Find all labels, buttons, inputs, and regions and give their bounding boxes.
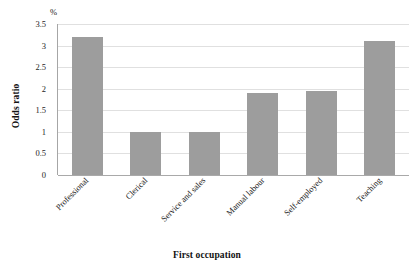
bar	[72, 37, 103, 175]
plot-area: 3.532.521.510.50	[57, 24, 408, 175]
bar	[247, 93, 278, 175]
x-axis-tick-label: Service and sales	[160, 176, 207, 223]
bar	[189, 132, 220, 175]
x-axis-tick-label: Teaching	[355, 176, 383, 204]
bars-group	[58, 24, 409, 175]
y-axis-tick-label: 2.5	[20, 63, 46, 72]
x-axis-title: First occupation	[0, 250, 414, 260]
bar-chart-figure: Odds ratio % 3.532.521.510.50 Profession…	[0, 0, 414, 275]
percent-unit-label: %	[50, 7, 57, 17]
bar	[130, 132, 161, 175]
y-axis-tick-label: 3.5	[20, 20, 46, 29]
y-axis-tick-label: 1	[20, 128, 46, 137]
bar	[306, 91, 337, 175]
y-axis-tick-label: 0.5	[20, 149, 46, 158]
y-axis-tick-label: 3	[20, 41, 46, 50]
y-axis-tick-label: 0	[20, 171, 46, 180]
x-axis-tick-label: Professional	[55, 176, 91, 212]
bar	[364, 41, 395, 175]
x-axis-tick-label: Self-employed	[283, 176, 324, 217]
x-axis-tick-label: Clerical	[124, 176, 149, 201]
x-axis-tick-labels: ProfessionalClericalService and salesMan…	[57, 176, 408, 246]
x-axis-tick-label: Manual labour	[225, 176, 266, 217]
y-axis-tick-label: 2	[20, 84, 46, 93]
y-axis-tick-label: 1.5	[20, 106, 46, 115]
